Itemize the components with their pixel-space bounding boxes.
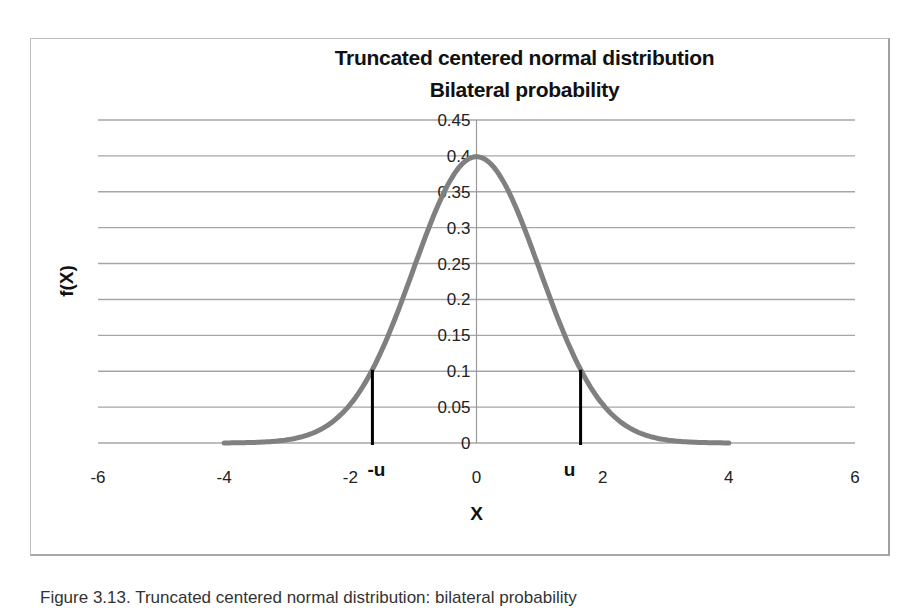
y-tick-label: 0.3 <box>447 219 471 238</box>
y-tick-label: 0.45 <box>437 111 470 130</box>
y-tick-label: 0.2 <box>447 290 471 309</box>
x-tick-label: 2 <box>598 468 607 487</box>
x-tick-labels: -6-4-20246 <box>90 468 859 487</box>
marker-label-u: u <box>564 459 576 480</box>
x-tick-label: -4 <box>217 468 232 487</box>
x-tick-label: 6 <box>850 468 859 487</box>
x-axis-title: X <box>470 503 483 524</box>
marker-label-minus-u: -u <box>367 459 385 480</box>
y-tick-label: 0.1 <box>447 362 471 381</box>
y-tick-label: 0.15 <box>437 326 470 345</box>
x-tick-label: -6 <box>90 468 105 487</box>
y-tick-label: 0 <box>461 434 470 453</box>
y-tick-label: 0.05 <box>437 398 470 417</box>
x-tick-label: 0 <box>472 468 481 487</box>
y-tick-label: 0.25 <box>437 255 470 274</box>
x-tick-label: -2 <box>343 468 358 487</box>
x-tick-label: 4 <box>724 468 733 487</box>
figure-caption: Figure 3.13. Truncated centered normal d… <box>40 588 577 608</box>
y-axis-title: f(X) <box>56 265 77 297</box>
